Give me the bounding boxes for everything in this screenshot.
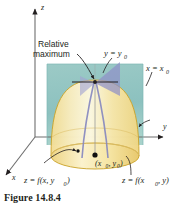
curve-left-label-close: ) [66,175,70,185]
curve-right-label-mid: , y) [158,175,169,185]
curve-right-label: z = f(x 0 , y) [121,175,169,187]
plane-x-label-text: x = x [145,63,164,73]
figure-caption: Figure 14.8.4 [4,192,61,203]
relative-maximum-point [93,80,97,84]
relative-maximum-label-line2: maximum [33,49,70,59]
x-axis-label: x [11,173,16,182]
trace-curve-marker [76,149,79,152]
curve-right-label-text: z = f(x [121,175,144,185]
plane-y-label: y = y 0 [103,48,127,60]
plane-x-label-subscript: 0 [166,69,169,75]
calculus-surface-diagram: z y x Relative maximum y = y 0 x = x 0 (… [0,0,178,212]
point-x0-y0 [92,152,97,157]
x-axis [6,137,35,175]
plane-x-label: x = x 0 [145,63,169,75]
curve-left-label: z = f(x, y 0 ) [23,175,70,187]
y-axis-label: y [162,122,167,131]
figure-container: z y x Relative maximum y = y 0 x = x 0 (… [0,0,178,212]
curve-left-label-text: z = f(x, y [23,175,55,185]
point-label-mid: , y [109,159,117,168]
plane-y-label-text: y = y [103,48,122,58]
point-label-open: (x [95,159,102,168]
relative-maximum-label-line1: Relative [38,39,69,49]
plane-y-label-subscript: 0 [124,54,127,60]
z-axis-label: z [40,3,45,12]
leader-plane-x [146,72,152,86]
point-label-close: ) [119,159,123,168]
